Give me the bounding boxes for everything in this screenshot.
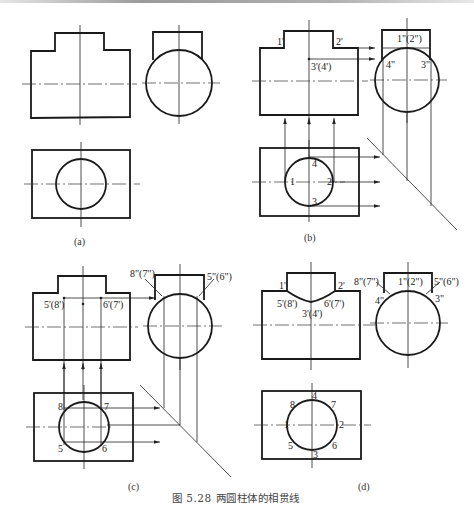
point-label: 3 (312, 196, 317, 207)
point-label: 1' (277, 36, 284, 47)
side-view: 8"(7") 1"(2") 5"(6") 4" 3" (354, 262, 459, 368)
point-label: 1 (284, 419, 289, 430)
projection-lines (285, 60, 457, 230)
side-view: 1"(2") 4" 3" (370, 18, 447, 123)
point-label: 2 (327, 176, 332, 187)
point-label: 5'(8') (277, 298, 297, 310)
side-view: 8"(7") 5"(6") (130, 264, 232, 370)
front-view: 5'(8') 6'(7') (25, 266, 155, 370)
point-label: 1 (290, 176, 295, 187)
point-label: 3" (435, 293, 444, 304)
side-view (142, 25, 220, 124)
panel-b: 1' 2' 3'(4') 1"(2") 4" 3" (252, 18, 457, 244)
point-label: 5 (58, 443, 63, 454)
top-view: 8 7 5 6 (26, 385, 133, 469)
panel-a: (a) (22, 25, 220, 248)
point-label: 6 (332, 440, 337, 451)
top-view: 4 1 2 3 (252, 140, 359, 222)
front-view (22, 25, 137, 125)
point-label: 3 (313, 449, 318, 460)
figure-canvas: (a) 1' 2' 3'(4') 1"(2") 4" 3" (0, 0, 474, 520)
figure-caption: 图 5.28 两圆柱体的相贯线 (172, 492, 300, 504)
panel-d: 1' 2' 5'(8') 6'(7') 3'(4') 8"(7") 1"(2")… (253, 262, 459, 493)
point-label: 6'(7') (103, 299, 123, 311)
point-label: 1' (279, 280, 286, 291)
point-label: 4" (375, 295, 384, 306)
point-label: 8 (290, 399, 295, 410)
point-label: 8"(7") (130, 268, 155, 280)
point-label: 2' (336, 36, 343, 47)
point-label: 2' (338, 280, 345, 291)
point-label: 6'(7') (324, 298, 344, 310)
point-label: 1"(2") (397, 33, 422, 45)
point-label: 6 (102, 443, 107, 454)
point-label: 1"(2") (398, 276, 423, 288)
point-label: 3" (421, 59, 430, 70)
point-label: 8 (58, 401, 63, 412)
panel-d-label: (d) (358, 481, 370, 493)
point-label: 7 (331, 399, 336, 410)
panel-c-label: (c) (128, 481, 139, 493)
panel-b-label: (b) (304, 232, 316, 244)
point-label: 3'(4') (311, 61, 331, 73)
point-label: 4 (312, 390, 317, 401)
point-label: 2 (339, 419, 344, 430)
point-label: 5'(8') (44, 299, 64, 311)
panel-c: 5'(8') 6'(7') 8"(7") 5"(6") (25, 264, 232, 493)
panel-a-label: (a) (74, 236, 85, 248)
top-view (24, 142, 140, 227)
point-label: 5"(6") (434, 276, 459, 288)
point-label: 8"(7") (354, 276, 379, 288)
point-label: 4 (312, 158, 317, 169)
point-label: 3'(4') (302, 308, 322, 320)
point-label: 5"(6") (207, 271, 232, 283)
top-view: 4 8 7 1 2 5 6 3 (254, 383, 371, 468)
point-label: 5 (288, 440, 293, 451)
point-label: 4" (386, 59, 395, 70)
front-view: 1' 2' 3'(4') (252, 20, 375, 125)
point-label: 7 (104, 401, 109, 412)
